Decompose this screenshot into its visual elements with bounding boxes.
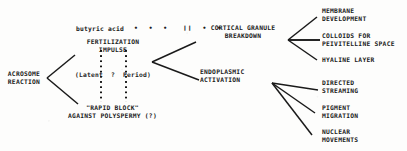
line-endoplasmic-to-nuclear xyxy=(272,83,312,135)
line-cortical-to-hyaline xyxy=(288,40,317,60)
line-endoplasmic-to-pigment xyxy=(272,83,315,113)
outcome-directed-streaming: DIRECTED STREAMING xyxy=(322,79,407,96)
node-cortical-granule-breakdown: CORTICAL GRANULE BREAKDOWN xyxy=(197,24,289,41)
outcome-nuclear-movements: NUCLEAR MOVEMENTS xyxy=(322,128,407,145)
node-fertilization-impulse: FERTILIZATION IMPULSE xyxy=(66,38,160,55)
node-acrosome-reaction: ACROSOME REACTION xyxy=(2,70,46,87)
node-latent-period: (Latent ? Period) xyxy=(61,71,165,79)
diagram-canvas: butyric acid • • • ❙❙ • • ACROSOME REACT… xyxy=(0,0,407,151)
outcome-colloids-perivitelline: COLLOIDS FOR PEIVITELLINE SPACE xyxy=(322,32,407,49)
outcome-pigment-migration: PIGMENT MIGRATION xyxy=(322,104,407,121)
outcome-membrane-development: MEMBRANE DEVELOPMENT xyxy=(322,7,407,24)
node-endoplasmic-activation: ENDOPLASMIC ACTIVATION xyxy=(200,68,280,85)
outcome-hyaline-layer: HYALINE LAYER xyxy=(322,56,407,64)
line-cortical-to-membrane xyxy=(288,17,317,40)
line-acrosome-to-rapid-block xyxy=(47,78,78,104)
stimulus-label: butyric acid xyxy=(76,25,124,33)
node-rapid-block: "RAPID BLOCK" AGAINST POLYSPERMY (?) xyxy=(50,104,175,121)
